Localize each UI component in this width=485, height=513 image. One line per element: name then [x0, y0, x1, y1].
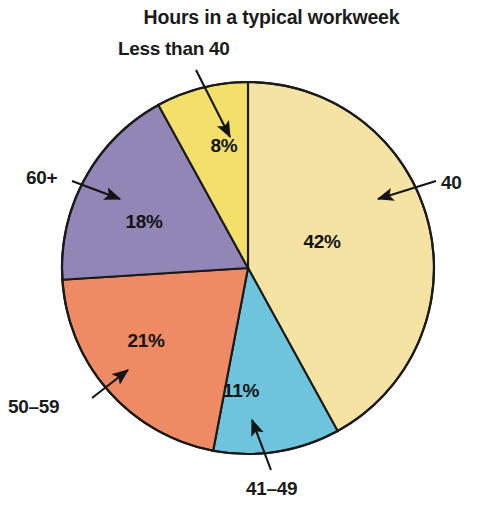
pie-slice-value-label-41-49: 11%	[223, 380, 259, 402]
pie-slice-value-label-less-than-40: 8%	[211, 135, 238, 157]
callout-label-41-49: 41–49	[246, 478, 297, 500]
leader-line-41-49	[252, 420, 271, 470]
callout-label-50-59: 50–59	[8, 396, 59, 418]
pie-slice-value-label-50-59: 21%	[127, 330, 164, 352]
leader-line-40	[378, 181, 436, 199]
callout-label-60-plus: 60+	[26, 167, 57, 189]
callout-label-less-than-40: Less than 40	[118, 38, 230, 60]
callout-leader-lines	[0, 0, 485, 513]
leader-line-60-plus	[72, 181, 120, 199]
leader-line-less-than-40	[196, 70, 230, 137]
callout-label-40: 40	[441, 172, 462, 194]
leader-line-50-59	[92, 370, 128, 398]
pie-chart-figure: Hours in a typical workweek Less than 40…	[0, 0, 485, 513]
pie-slice-value-label-40: 42%	[303, 231, 340, 253]
pie-slice-value-label-60: 18%	[125, 211, 162, 233]
